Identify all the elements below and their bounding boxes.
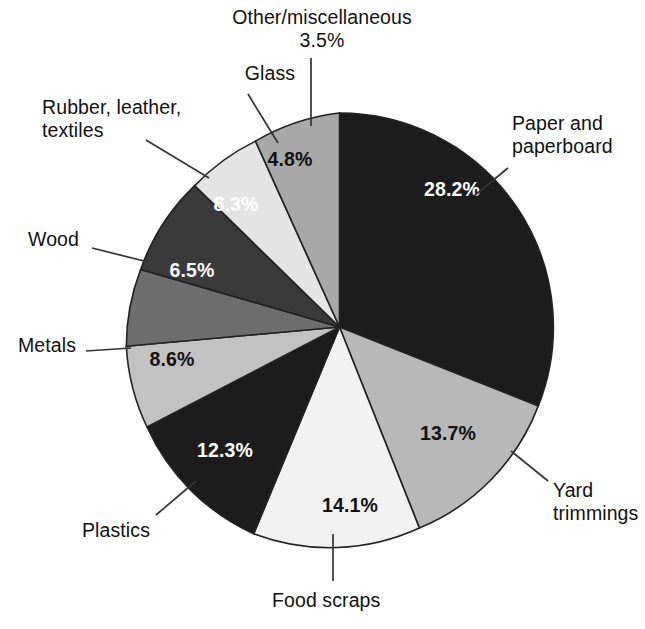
- pie-slices: [126, 113, 553, 548]
- pie-chart: 28.2% 13.7% 14.1% 12.3% 8.6% 6.5% 8.3% 4…: [0, 0, 645, 629]
- callout-label-plastics: Plastics: [82, 519, 202, 542]
- value-label-food: 14.1%: [322, 494, 378, 516]
- callout-label-food-scraps: Food scraps: [272, 589, 442, 612]
- leader-line-glass: [248, 94, 278, 143]
- callout-label-paper-and-paperboard: Paper and paperboard: [512, 112, 645, 158]
- value-label-paper: 28.2%: [424, 178, 480, 200]
- callout-label-metals: Metals: [18, 334, 128, 357]
- leader-line-yard: [511, 451, 548, 481]
- callout-label-wood: Wood: [28, 228, 124, 251]
- value-label-glass: 4.8%: [268, 148, 313, 170]
- callout-label-other-miscellaneous: Other/miscellaneous 3.5%: [207, 6, 437, 52]
- value-label-metals: 8.6%: [150, 348, 195, 370]
- value-label-yard: 13.7%: [420, 422, 476, 444]
- leader-line-plastics: [156, 481, 196, 515]
- value-label-rubber: 8.3%: [214, 193, 259, 215]
- callout-label-rubber-leather-textiles: Rubber, leather, textiles: [42, 96, 232, 142]
- value-label-wood: 6.5%: [170, 259, 215, 281]
- callout-label-yard-trimmings: Yard trimmings: [553, 479, 645, 525]
- callout-label-glass: Glass: [222, 62, 318, 85]
- leader-line-rubber: [146, 140, 209, 178]
- value-label-plastics: 12.3%: [197, 439, 253, 461]
